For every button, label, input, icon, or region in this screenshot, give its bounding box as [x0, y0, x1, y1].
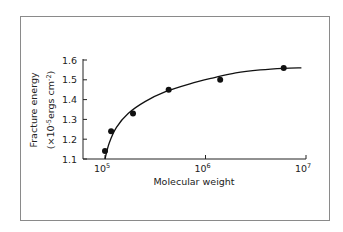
y-axis-title: Fracture energy	[28, 72, 39, 148]
x-tick-label: 106	[194, 162, 210, 174]
chart-plot: 1.11.21.31.41.51.6105106107 Molecular we…	[0, 0, 343, 232]
data-point	[108, 128, 114, 134]
y-tick-label: 1.1	[62, 154, 77, 165]
data-points	[102, 65, 287, 154]
axes: 1.11.21.31.41.51.6105106107	[62, 55, 311, 175]
y-tick-label: 1.3	[62, 114, 77, 125]
y-tick-label: 1.4	[62, 94, 77, 105]
data-point	[217, 77, 223, 83]
y-tick-label: 1.5	[62, 74, 77, 85]
y-tick-label: 1.2	[62, 134, 77, 145]
x-tick-label: 105	[94, 162, 110, 174]
data-point	[130, 110, 136, 116]
data-point	[166, 87, 172, 93]
data-point	[102, 148, 108, 154]
x-axis-title: Molecular weight	[153, 176, 234, 187]
data-point	[281, 65, 287, 71]
y-axis-units: (×10-5ergs cm-2)	[45, 71, 56, 150]
x-tick-label: 107	[295, 162, 311, 174]
y-tick-label: 1.6	[62, 55, 77, 66]
